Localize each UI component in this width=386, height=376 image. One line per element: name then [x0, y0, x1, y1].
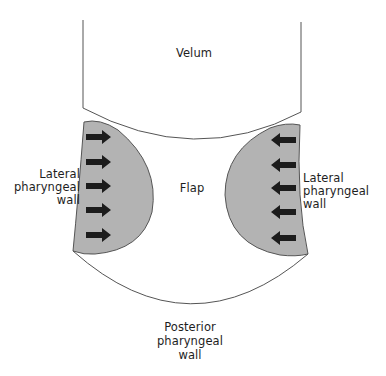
velum-label: Velum [172, 47, 216, 60]
left-lateral-wall-label: Lateral pharyngeal wall [8, 168, 80, 207]
posterior-wall-label-line2: pharyngeal [145, 334, 235, 348]
left-lateral-wall-shape [73, 121, 153, 254]
right-lateral-wall-label-line3: wall [303, 198, 383, 211]
flap-label: Flap [177, 182, 207, 195]
posterior-wall-arc [73, 251, 308, 304]
right-lateral-wall-label: Lateral pharyngeal wall [303, 172, 383, 211]
diagram-canvas: Velum Flap Lateral pharyngeal wall Later… [0, 0, 386, 376]
posterior-wall-label: Posterior pharyngeal wall [145, 320, 235, 362]
velum-outline [83, 20, 301, 139]
posterior-wall-label-line1: Posterior [145, 320, 235, 334]
left-lateral-wall-label-line3: wall [8, 194, 80, 207]
posterior-wall-label-line3: wall [145, 348, 235, 362]
